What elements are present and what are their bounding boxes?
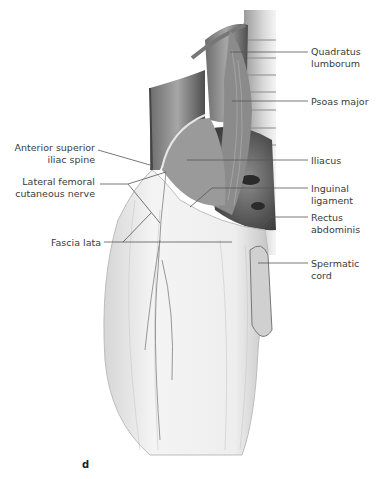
label-psoas-major: Psoas major [311, 96, 369, 108]
panel-letter: d [82, 459, 89, 470]
anatomy-figure: Quadratus lumborum Psoas major Iliacus I… [0, 0, 381, 479]
label-iliacus: Iliacus [311, 155, 341, 167]
label-rectus-abdominis: Rectus abdominis [311, 212, 360, 235]
label-anterior-superior-iliac-spine: Anterior superior iliac spine [15, 142, 95, 165]
spermatic-cord-structure [250, 246, 272, 336]
label-quadratus-lumborum: Quadratus lumborum [311, 46, 361, 69]
label-inguinal-ligament: Inguinal ligament [311, 183, 353, 206]
label-lateral-femoral-cutaneous-nerve: Lateral femoral cutaneous nerve [15, 176, 95, 199]
label-spermatic-cord: Spermatic cord [311, 258, 359, 281]
label-fascia-lata: Fascia lata [51, 237, 101, 249]
